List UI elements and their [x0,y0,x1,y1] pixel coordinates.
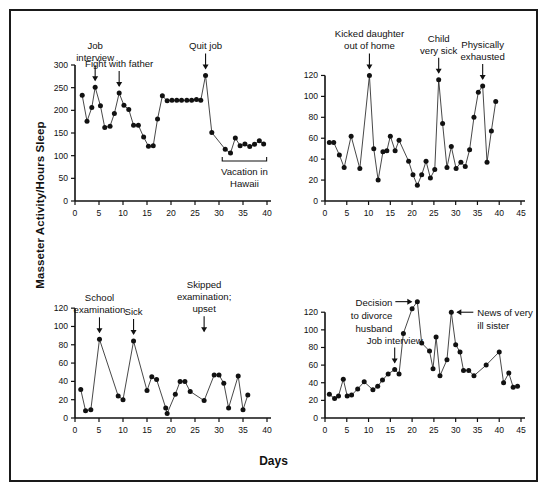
data-point [410,306,415,311]
y-tick-label: 120 [304,307,319,317]
y-tick-label: 80 [58,340,68,350]
x-tick-label: 5 [97,208,102,218]
data-point [370,387,375,392]
data-point [461,368,466,373]
y-tick-label: 60 [58,358,68,368]
data-point [392,367,397,372]
annotation-arrow-head [392,359,398,364]
x-axis-label: Days [11,454,536,468]
data-point [327,392,332,397]
data-point [257,138,262,143]
y-tick-label: 200 [54,105,69,115]
x-tick-label: 25 [429,425,439,435]
data-point [121,397,126,402]
data-point [497,349,502,354]
data-point [233,135,238,140]
x-tick-label: 40 [262,425,272,435]
data-point [375,384,380,389]
data-point [121,103,126,108]
data-point [476,90,481,95]
data-point [202,398,207,403]
data-point [145,388,150,393]
x-tick-label: 30 [451,208,461,218]
x-tick-label: 20 [166,208,176,218]
annotation-label: Quit job [189,40,222,51]
annotation-label: Job interview [367,335,423,346]
y-tick-label: 100 [54,321,69,331]
data-point [397,138,402,143]
data-point [480,83,485,88]
data-point [493,99,498,104]
data-point [449,144,454,149]
data-point [221,381,226,386]
x-tick-label: 35 [238,425,248,435]
data-point [380,378,385,383]
data-point [88,407,93,412]
annotation-arrow-head [407,299,412,305]
data-point [327,140,332,145]
data-point [388,134,393,139]
y-tick-label: 150 [54,128,69,138]
data-point [178,379,183,384]
annotation-label: Child [428,33,450,44]
data-point [341,377,346,382]
data-point [428,175,433,180]
data-point [188,389,193,394]
annotation-label: Hawaii [230,178,259,189]
x-tick-label: 0 [73,208,78,218]
y-tick-label: 60 [308,133,318,143]
x-tick-label: 5 [344,425,349,435]
annotation-label: News of very [477,307,533,318]
x-tick-label: 30 [451,425,461,435]
figure-root: Masseter Activity/Hours Sleep 0510152025… [0,0,547,499]
data-point [141,135,146,140]
y-tick-label: 80 [308,112,318,122]
data-point [437,373,442,378]
annotation-label: Skipped [187,279,222,290]
annotation-arrow-head [116,82,122,87]
x-tick-label: 0 [73,425,78,435]
y-tick-label: 60 [308,360,318,370]
y-tick-label: 120 [304,70,319,80]
data-point [384,148,389,153]
data-point [242,141,247,146]
data-point [449,310,454,315]
x-tick-label: 25 [190,208,200,218]
x-tick-label: 10 [364,425,374,435]
x-tick-label: 15 [142,208,152,218]
x-tick-label: 0 [323,425,328,435]
data-point [427,349,432,354]
y-tick-label: 40 [308,378,318,388]
data-point [203,73,208,78]
data-point [485,160,490,165]
data-point [342,165,347,170]
data-point [511,385,516,390]
y-tick-label: 20 [58,395,68,405]
annotation-label: upset [192,303,216,314]
annotation-label: Vacation in [221,166,268,177]
data-point [424,159,429,164]
data-point [151,143,156,148]
annotation-bracket [222,157,266,161]
data-point [471,115,476,120]
x-tick-label: 40 [494,208,504,218]
data-point [112,111,117,116]
data-point [458,160,463,165]
data-point [393,148,398,153]
x-tick-label: 30 [214,425,224,435]
data-point [406,159,411,164]
y-tick-label: 20 [308,395,318,405]
data-point [238,143,243,148]
y-tick-label: 0 [313,413,318,423]
x-tick-label: 30 [214,208,224,218]
x-tick-label: 45 [516,208,526,218]
data-point [410,172,415,177]
data-point [108,124,113,129]
data-point [236,373,241,378]
data-point [247,144,252,149]
data-point [198,98,203,103]
data-point [226,405,231,410]
data-point [501,380,506,385]
data-point [194,97,199,102]
data-point [189,98,194,103]
